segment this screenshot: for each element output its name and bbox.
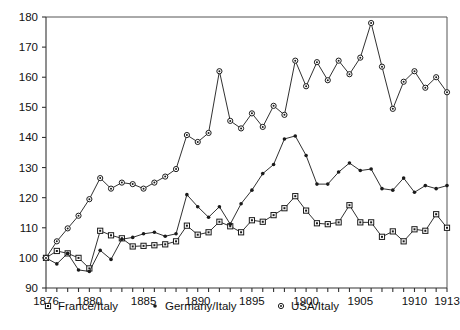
data-point-marker: [272, 163, 276, 167]
data-point-marker-center: [262, 126, 264, 128]
data-point-marker-center: [164, 243, 166, 245]
data-point-marker-center: [110, 188, 112, 190]
x-axis-tick-label: 1885: [131, 295, 157, 307]
data-point-marker: [174, 232, 178, 236]
data-point-marker-center: [294, 195, 296, 197]
data-point-marker-center: [143, 188, 145, 190]
data-point-marker: [358, 169, 362, 173]
data-point-marker-center: [186, 134, 188, 136]
legend-label: USA/Italy: [291, 300, 339, 312]
data-point-marker-center: [251, 112, 253, 114]
data-point-marker-center: [218, 70, 220, 72]
legend-item-usa-italy[interactable]: USA/Italy: [278, 300, 339, 312]
data-point-marker: [55, 262, 59, 266]
data-point-marker: [434, 187, 438, 191]
data-point-marker-center: [338, 60, 340, 62]
data-point-marker: [98, 249, 102, 253]
data-point-marker-center: [229, 120, 231, 122]
data-point-marker: [402, 176, 406, 180]
data-point-marker-center: [47, 305, 49, 307]
data-point-marker-center: [197, 234, 199, 236]
data-point-marker: [337, 170, 341, 174]
y-axis-tick-label: 180: [19, 11, 38, 23]
data-point-marker: [283, 137, 287, 141]
data-point-marker-center: [175, 168, 177, 170]
data-point-marker-center: [348, 204, 350, 206]
data-point-marker-center: [67, 227, 69, 229]
data-point-marker-center: [403, 81, 405, 83]
data-point-marker: [445, 184, 449, 188]
line-chart: 90100110120130140150160170180 1876188018…: [0, 0, 460, 330]
y-axis-tick-label: 130: [19, 162, 38, 174]
data-point-marker: [196, 205, 200, 209]
x-axis-tick-label: 1905: [348, 295, 374, 307]
data-series-layer: [43, 20, 449, 273]
data-point-marker-center: [316, 61, 318, 63]
series-germany-italy: [44, 134, 449, 273]
data-point-marker-center: [78, 257, 80, 259]
data-point-marker-center: [392, 108, 394, 110]
y-axis-tick-label: 110: [20, 222, 38, 234]
data-point-marker-center: [132, 183, 134, 185]
legend-item-germany-italy[interactable]: Germany/Italy: [153, 300, 237, 312]
data-point-marker-center: [78, 215, 80, 217]
data-point-marker-center: [88, 198, 90, 200]
data-point-marker-center: [56, 240, 58, 242]
data-point-marker: [261, 172, 265, 176]
series-line: [46, 136, 447, 272]
data-point-marker: [163, 234, 167, 238]
data-point-marker-center: [435, 76, 437, 78]
y-axis-tick-label: 120: [19, 192, 38, 204]
data-point-marker-center: [56, 250, 58, 252]
data-point-marker-center: [143, 245, 145, 247]
data-point-marker-center: [381, 236, 383, 238]
data-point-marker-center: [283, 207, 285, 209]
data-point-marker-center: [197, 141, 199, 143]
legend-label: Germany/Italy: [165, 300, 237, 312]
data-point-marker: [207, 215, 211, 219]
y-axis-tick-label: 150: [19, 101, 38, 113]
data-point-marker-center: [359, 221, 361, 223]
data-point-marker-center: [153, 182, 155, 184]
data-point-marker-center: [208, 231, 210, 233]
data-point-marker-center: [208, 132, 210, 134]
data-point-marker: [153, 304, 157, 308]
data-point-marker-center: [316, 222, 318, 224]
y-axis-tick-label: 170: [19, 41, 38, 53]
data-point-marker-center: [262, 221, 264, 223]
data-point-marker: [218, 205, 222, 209]
data-point-marker-center: [251, 219, 253, 221]
x-axis-tick-label: 1910: [402, 295, 428, 307]
data-point-marker: [391, 188, 395, 192]
data-point-marker-center: [370, 22, 372, 24]
data-point-marker: [239, 202, 243, 206]
data-point-marker: [120, 237, 124, 241]
data-point-marker-center: [413, 228, 415, 230]
data-point-marker: [250, 188, 254, 192]
data-point-marker-center: [424, 230, 426, 232]
data-point-marker-center: [283, 114, 285, 116]
data-point-marker-center: [186, 225, 188, 227]
series-line: [46, 196, 447, 268]
data-point-marker-center: [273, 214, 275, 216]
data-point-marker-center: [273, 105, 275, 107]
data-point-marker-center: [381, 66, 383, 68]
data-point-marker-center: [164, 176, 166, 178]
data-point-marker: [369, 167, 373, 171]
data-point-marker-center: [348, 73, 350, 75]
data-point-marker-center: [338, 221, 340, 223]
data-point-marker-center: [218, 221, 220, 223]
data-point-marker: [185, 193, 189, 197]
data-point-marker-center: [240, 231, 242, 233]
series-france-italy: [43, 194, 449, 271]
data-point-marker: [293, 134, 297, 138]
data-point-marker-center: [121, 182, 123, 184]
data-point-marker-center: [305, 210, 307, 212]
data-point-marker-center: [327, 223, 329, 225]
legend-label: France/Italy: [58, 300, 118, 312]
data-point-marker: [109, 258, 113, 262]
data-point-marker-center: [446, 227, 448, 229]
data-point-marker: [142, 232, 146, 236]
data-point-marker-center: [45, 257, 47, 259]
series-line: [46, 23, 447, 258]
